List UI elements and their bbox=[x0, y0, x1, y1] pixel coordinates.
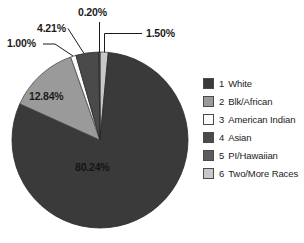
leader-line-1-00 bbox=[55, 44, 73, 56]
legend-number-3: 3 bbox=[219, 114, 224, 125]
legend-item-white[interactable]: 1 White bbox=[203, 74, 304, 92]
leader-line-4-21 bbox=[68, 29, 84, 54]
data-label-4-21: 4.21% bbox=[37, 22, 66, 34]
legend-swatch-american-indian bbox=[203, 114, 214, 125]
legend-number-1: 1 bbox=[219, 78, 224, 89]
pie-chart-figure: 1.50% 0.20% 4.21% 1.00% 12.84% 80.24% 1 … bbox=[0, 0, 304, 243]
data-label-12-84: 12.84% bbox=[29, 90, 63, 102]
legend-item-blk-african[interactable]: 2 Blk/African bbox=[203, 92, 304, 110]
legend-label-white: White bbox=[228, 78, 252, 89]
legend-label-pi-hawaiian: PI/Hawaiian bbox=[228, 150, 278, 161]
legend-swatch-blk-african bbox=[203, 96, 214, 107]
legend-label-american-indian: American Indian bbox=[228, 114, 295, 125]
legend-swatch-two-more-races bbox=[203, 168, 214, 179]
legend-number-5: 5 bbox=[219, 150, 224, 161]
legend-swatch-white bbox=[203, 78, 214, 89]
chart-plot-area: 1.50% 0.20% 4.21% 1.00% 12.84% 80.24% bbox=[0, 0, 200, 243]
data-label-0-20: 0.20% bbox=[78, 6, 107, 18]
legend-item-american-indian[interactable]: 3 American Indian bbox=[203, 110, 304, 128]
legend-number-2: 2 bbox=[219, 96, 224, 107]
data-label-80-24: 80.24% bbox=[75, 161, 109, 173]
chart-legend: 1 White 2 Blk/African 3 American Indian … bbox=[203, 74, 304, 182]
legend-number-4: 4 bbox=[219, 132, 224, 143]
legend-label-blk-african: Blk/African bbox=[228, 96, 272, 107]
legend-number-6: 6 bbox=[219, 168, 224, 179]
legend-label-two-more-races: Two/More Races bbox=[228, 168, 298, 179]
legend-swatch-asian bbox=[203, 132, 214, 143]
legend-item-asian[interactable]: 4 Asian bbox=[203, 128, 304, 146]
legend-label-asian: Asian bbox=[228, 132, 251, 143]
legend-item-two-more-races[interactable]: 6 Two/More Races bbox=[203, 164, 304, 182]
data-label-1-50: 1.50% bbox=[146, 27, 175, 39]
legend-item-pi-hawaiian[interactable]: 5 PI/Hawaiian bbox=[203, 146, 304, 164]
legend-swatch-pi-hawaiian bbox=[203, 150, 214, 161]
data-label-1-00: 1.00% bbox=[7, 37, 36, 49]
